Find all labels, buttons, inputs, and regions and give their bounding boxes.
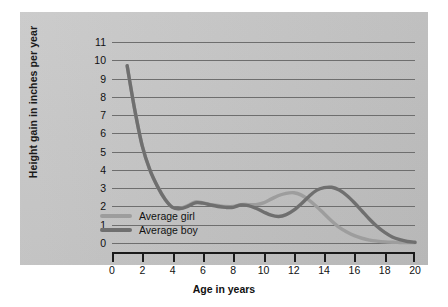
x-tick-label: 6 — [200, 264, 206, 276]
y-tick-label: 0 — [100, 238, 106, 249]
y-tick-label: 11 — [95, 37, 106, 48]
x-tick — [142, 252, 144, 262]
x-tick-label: 20 — [409, 264, 421, 276]
y-tick-label: 9 — [100, 74, 106, 85]
y-tick-label: 5 — [100, 147, 106, 158]
x-tick-label: 8 — [230, 264, 236, 276]
y-axis-title: Height gain in inches per year — [27, 7, 39, 197]
x-axis-title: Age in years — [0, 283, 448, 295]
chart-legend: Average girlAverage boy — [100, 209, 198, 237]
legend-label: Average boy — [139, 225, 198, 236]
y-tick-label: 8 — [100, 92, 106, 103]
legend-item: Average girl — [100, 209, 198, 223]
y-tick-label: 7 — [100, 110, 106, 121]
x-tick-label: 0 — [109, 264, 115, 276]
x-tick — [413, 252, 415, 262]
x-tick-label: 18 — [379, 264, 391, 276]
x-tick — [233, 252, 235, 262]
x-tick — [324, 252, 326, 262]
x-tick — [294, 252, 296, 262]
legend-swatch-icon — [100, 228, 132, 232]
x-tick-label: 16 — [349, 264, 361, 276]
x-tick — [264, 252, 266, 262]
x-tick — [203, 252, 205, 262]
chart-figure: Height gain in inches per year 012345678… — [0, 0, 448, 307]
x-tick — [385, 252, 387, 262]
x-tick-label: 2 — [139, 264, 145, 276]
y-tick-label: 3 — [100, 183, 106, 194]
x-tick-label: 10 — [258, 264, 270, 276]
legend-swatch-icon — [100, 214, 132, 218]
y-tick-label: 10 — [94, 55, 106, 66]
x-tick-label: 14 — [318, 264, 330, 276]
legend-label: Average girl — [139, 211, 195, 222]
x-tick-label: 12 — [288, 264, 300, 276]
y-tick-label: 4 — [100, 165, 106, 176]
y-tick-label: 6 — [100, 128, 106, 139]
x-tick-label: 4 — [170, 264, 176, 276]
gridline — [112, 243, 415, 244]
x-tick — [354, 252, 356, 262]
x-tick — [173, 252, 175, 262]
x-tick — [112, 252, 114, 262]
legend-item: Average boy — [100, 223, 198, 237]
